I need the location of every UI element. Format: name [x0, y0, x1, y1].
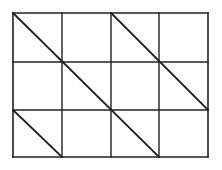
- grid-diagonals-diagram: [0, 0, 222, 170]
- figure-container: [0, 0, 222, 170]
